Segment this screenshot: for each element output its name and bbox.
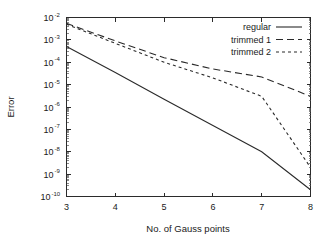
- y-tick-label: 10: [43, 170, 53, 180]
- legend-label-trimmed-2: trimmed 2: [231, 47, 271, 57]
- x-tick-label: 3: [64, 202, 69, 212]
- x-tick-label: 7: [259, 202, 264, 212]
- y-tick-label-exponent: -4: [55, 56, 61, 62]
- x-axis-title: No. of Gauss points: [146, 223, 230, 234]
- x-tick-label: 4: [113, 202, 118, 212]
- y-tick-label-exponent: -7: [55, 123, 61, 129]
- y-tick-label-exponent: -5: [55, 79, 61, 85]
- y-tick-label-exponent: -2: [55, 12, 61, 18]
- y-tick-label-exponent: -8: [55, 146, 61, 152]
- plot-area: 10-210-310-410-510-610-710-810-910-10 34…: [0, 0, 327, 238]
- y-tick-label-exponent: -3: [55, 34, 61, 40]
- x-tick-label: 5: [162, 202, 167, 212]
- chart-figure: 10-210-310-410-510-610-710-810-910-10 34…: [0, 0, 327, 238]
- y-tick-label: 10: [43, 80, 53, 90]
- y-tick-label: 10: [43, 103, 53, 113]
- y-tick-label: 10: [43, 35, 53, 45]
- y-tick-label: 10: [43, 13, 53, 23]
- y-tick-label: 10: [43, 147, 53, 157]
- y-tick-label-exponent: -10: [52, 191, 61, 197]
- legend-label-trimmed-1: trimmed 1: [231, 35, 271, 45]
- y-axis-title: Error: [5, 96, 16, 117]
- y-tick-label: 10: [43, 58, 53, 68]
- legend-label-regular: regular: [243, 22, 271, 32]
- y-tick-label-exponent: -9: [55, 168, 61, 174]
- y-tick-label-exponent: -6: [55, 101, 61, 107]
- y-tick-label: 10: [43, 125, 53, 135]
- x-tick-label: 8: [308, 202, 313, 212]
- y-tick-label: 10: [40, 192, 50, 202]
- x-tick-label: 6: [210, 202, 215, 212]
